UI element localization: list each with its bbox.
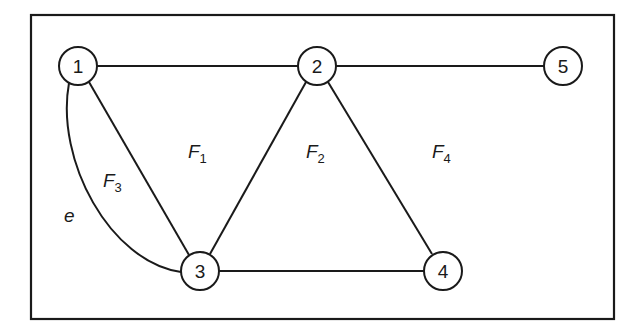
svg-text:2: 2	[312, 56, 323, 77]
edge-2-4	[328, 82, 432, 254]
node-1: 1	[59, 47, 97, 85]
svg-text:4: 4	[438, 261, 449, 282]
face-label-f2: F2	[306, 141, 325, 166]
face-label-f4: F4	[432, 141, 451, 166]
edge-e-curved	[67, 83, 181, 272]
graph-diagram: 1 2 5 3 4 F1 F2 F3 F4 e	[0, 0, 637, 335]
face-label-f3: F3	[103, 170, 122, 195]
edge-2-3	[210, 82, 306, 254]
svg-text:1: 1	[73, 56, 84, 77]
svg-text:3: 3	[195, 261, 206, 282]
node-5: 5	[544, 47, 582, 85]
node-4: 4	[424, 252, 462, 290]
node-3: 3	[181, 252, 219, 290]
svg-text:5: 5	[558, 56, 569, 77]
face-label-f1: F1	[188, 141, 207, 166]
node-2: 2	[298, 47, 336, 85]
edge-label-e: e	[64, 205, 75, 226]
edge-1-3	[89, 82, 189, 255]
